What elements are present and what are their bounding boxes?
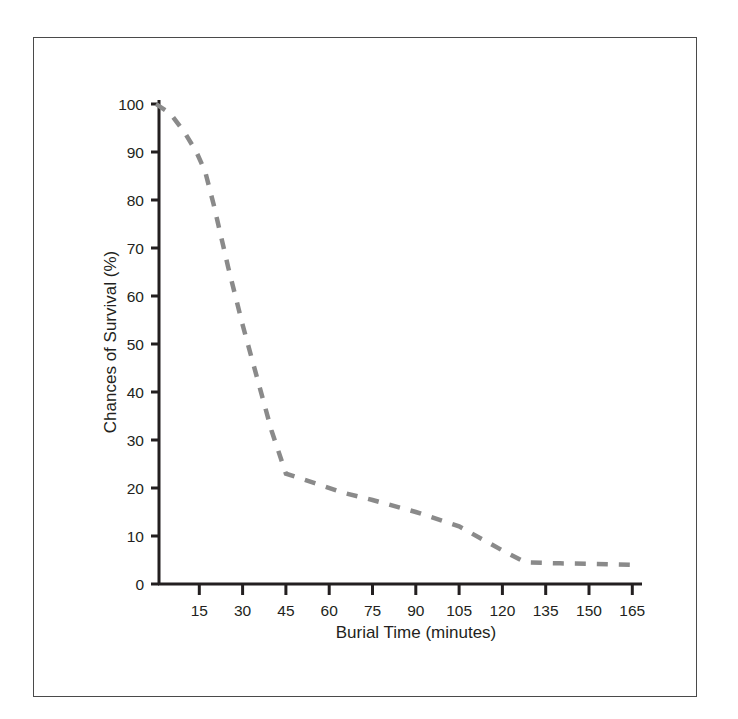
x-tick-label: 60 bbox=[321, 602, 339, 619]
y-tick-label: 60 bbox=[127, 288, 145, 305]
x-tick-label: 150 bbox=[576, 602, 602, 619]
x-tick-labels: 153045607590105120135150165 bbox=[191, 602, 646, 619]
y-tick-label: 80 bbox=[127, 192, 145, 209]
page-canvas: 0102030405060708090100 15304560759010512… bbox=[0, 0, 738, 719]
y-tick-labels: 0102030405060708090100 bbox=[118, 96, 144, 593]
y-tick-label: 0 bbox=[135, 576, 144, 593]
x-tick-label: 165 bbox=[619, 602, 645, 619]
x-tick-label: 105 bbox=[446, 602, 472, 619]
y-tick-label: 90 bbox=[127, 144, 145, 161]
survival-line-chart: 0102030405060708090100 15304560759010512… bbox=[34, 38, 698, 698]
x-tick-label: 120 bbox=[489, 602, 515, 619]
y-tick-label: 70 bbox=[127, 240, 145, 257]
survival-data-line bbox=[156, 104, 632, 565]
x-tick-label: 90 bbox=[407, 602, 425, 619]
x-tick-label: 75 bbox=[364, 602, 381, 619]
x-tick-label: 45 bbox=[277, 602, 294, 619]
y-tick-label: 30 bbox=[127, 432, 145, 449]
x-axis-title: Burial Time (minutes) bbox=[336, 623, 497, 642]
y-tick-label: 100 bbox=[118, 96, 144, 113]
x-tick-label: 135 bbox=[533, 602, 559, 619]
x-tick-label: 15 bbox=[191, 602, 208, 619]
y-tick-label: 50 bbox=[127, 336, 145, 353]
plot-area: 0102030405060708090100 15304560759010512… bbox=[34, 38, 698, 698]
y-tick-label: 20 bbox=[127, 480, 145, 497]
x-tick-marks bbox=[199, 584, 632, 595]
y-tick-label: 10 bbox=[127, 528, 145, 545]
figure-frame: 0102030405060708090100 15304560759010512… bbox=[33, 37, 697, 697]
x-tick-label: 30 bbox=[234, 602, 252, 619]
y-axis-title: Chances of Survival (%) bbox=[101, 251, 120, 433]
y-tick-label: 40 bbox=[127, 384, 145, 401]
